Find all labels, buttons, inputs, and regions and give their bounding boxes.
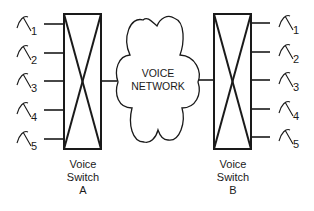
- phone-b-4-label: 4: [293, 110, 299, 122]
- phone-a-1-label: 1: [31, 25, 37, 37]
- telephone-handset-icon: [17, 103, 31, 117]
- network-label: VOICE NETWORK: [118, 67, 198, 93]
- switch-a-label-line1: Voice: [58, 158, 108, 171]
- telephone-handset-icon: [17, 46, 31, 60]
- switch-a-label-line2: Switch: [58, 171, 108, 184]
- switch-b-label-line3: B: [208, 184, 258, 197]
- switch-b-label: Voice Switch B: [208, 158, 258, 197]
- switch-a-label-line3: A: [58, 184, 108, 197]
- phones-b-icons: [279, 16, 293, 144]
- switch-a-lines: [44, 24, 64, 139]
- telephone-handset-icon: [279, 102, 293, 116]
- network-label-line2: NETWORK: [118, 80, 198, 93]
- switch-a-label: Voice Switch A: [58, 158, 108, 197]
- phone-a-2-label: 2: [31, 54, 37, 66]
- voice-network-diagram: 1 2 3 4 5 1 2 3 4 5 VOICE NETWORK Voice …: [0, 0, 314, 211]
- telephone-handset-icon: [279, 130, 293, 144]
- phones-a-icons: [17, 17, 31, 146]
- switch-b-label-line2: Switch: [208, 171, 258, 184]
- phone-b-1-label: 1: [293, 24, 299, 36]
- switch-b-label-line1: Voice: [208, 158, 258, 171]
- telephone-handset-icon: [17, 74, 31, 88]
- phone-b-5-label: 5: [293, 138, 299, 150]
- phone-a-4-label: 4: [31, 111, 37, 123]
- switch-b-box: [214, 14, 251, 149]
- phone-b-2-label: 2: [293, 53, 299, 65]
- phone-a-3-label: 3: [31, 82, 37, 94]
- network-label-line1: VOICE: [118, 67, 198, 80]
- phone-a-5-label: 5: [31, 140, 37, 152]
- telephone-handset-icon: [279, 73, 293, 87]
- telephone-handset-icon: [17, 132, 31, 146]
- switch-b-lines: [251, 23, 270, 137]
- phone-b-3-label: 3: [293, 81, 299, 93]
- telephone-handset-icon: [279, 16, 293, 30]
- switch-a-box: [64, 14, 101, 149]
- telephone-handset-icon: [279, 45, 293, 59]
- telephone-handset-icon: [17, 17, 31, 31]
